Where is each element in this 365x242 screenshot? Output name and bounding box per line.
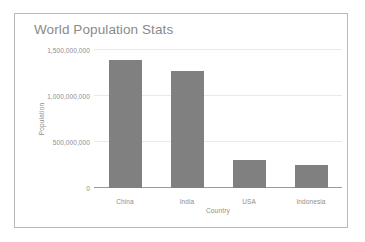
bar-usa[interactable]: [233, 160, 266, 188]
x-tick-slot: India: [156, 190, 218, 208]
chart-title: World Population Stats: [34, 22, 173, 37]
bar-slot: [156, 50, 218, 188]
x-axis-label: Country: [94, 207, 342, 214]
x-axis-tick-label: USA: [242, 198, 256, 205]
x-axis-tick-label: Indonesia: [296, 198, 325, 205]
x-tick-slot: China: [94, 190, 156, 208]
bar-china[interactable]: [109, 60, 142, 188]
bar-india[interactable]: [171, 71, 204, 188]
x-axis-tick-label: India: [180, 198, 195, 205]
x-axis-tick-label: China: [116, 198, 133, 205]
y-axis-tick-label: 500,000,000: [53, 139, 90, 146]
bar-indonesia[interactable]: [295, 165, 328, 188]
y-axis-tick-label: 1,500,000,000: [47, 47, 90, 54]
x-axis-tick-labels: ChinaIndiaUSAIndonesia: [94, 190, 342, 208]
x-tick-slot: USA: [218, 190, 280, 208]
chart-container: World Population Stats Population 0500,0…: [14, 13, 348, 228]
x-tick-slot: Indonesia: [280, 190, 342, 208]
bar-slot: [280, 50, 342, 188]
y-axis-tick-label: 1,000,000,000: [47, 93, 90, 100]
bar-series: [94, 50, 342, 188]
bar-slot: [94, 50, 156, 188]
y-axis-tick-labels: 0500,000,0001,000,000,0001,500,000,000: [29, 50, 90, 188]
bar-slot: [218, 50, 280, 188]
plot-area: [94, 50, 342, 188]
y-axis-tick-label: 0: [86, 185, 90, 192]
